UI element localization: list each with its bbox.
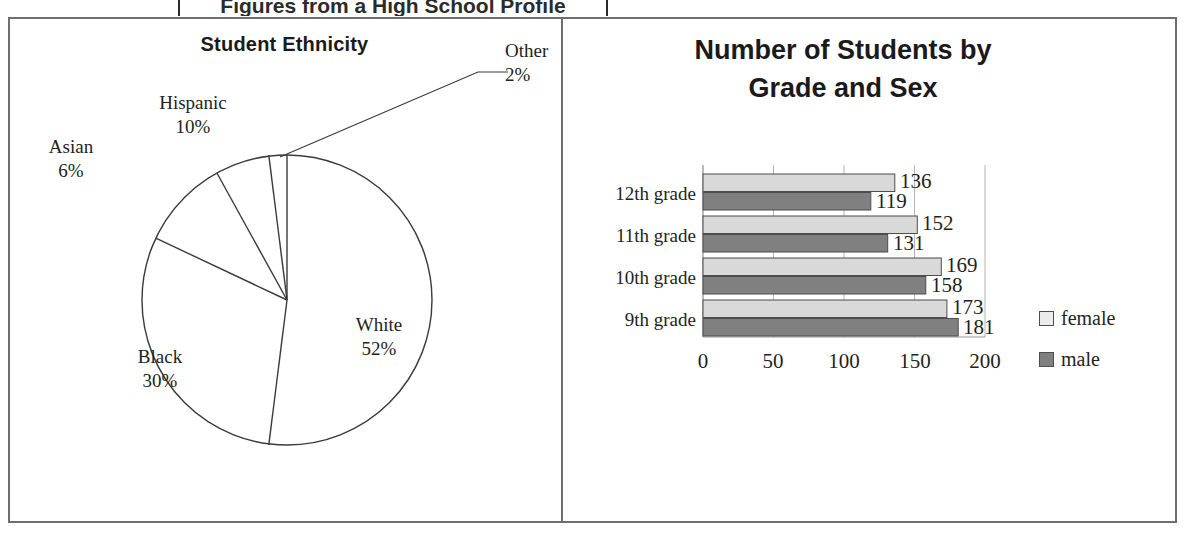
other-leader-line [280, 72, 508, 157]
bar-12th-female [703, 174, 895, 192]
bar-10th-female [703, 258, 941, 276]
pie-label-asian: Asian 6% [28, 135, 114, 183]
bar-10th-male [703, 277, 926, 295]
legend-swatch-female-icon [1039, 311, 1054, 326]
bar-11th-male [703, 235, 888, 253]
pie-label-black: Black 30% [116, 345, 204, 393]
pie-label-white: White 52% [333, 313, 425, 361]
bar-12th-male [703, 193, 871, 211]
category-label-10th: 10th grade [568, 267, 696, 289]
legend-label-male: male [1061, 348, 1100, 371]
top-cropped-title-box: Figures from a High School Profile [178, 0, 608, 16]
value-label-11th-female: 152 [922, 211, 954, 236]
value-label-11th-male: 131 [893, 231, 925, 256]
value-label-9th-male: 181 [963, 315, 995, 340]
bar-9th-male [703, 319, 958, 337]
scanned-figure-page: Figures from a High School Profile Stude… [0, 0, 1185, 535]
xtick-50: 50 [748, 349, 798, 374]
category-label-12th: 12th grade [568, 183, 696, 205]
category-label-9th: 9th grade [568, 309, 696, 331]
pie-chart-graphic [8, 17, 561, 523]
xtick-100: 100 [816, 349, 872, 374]
xtick-150: 150 [887, 349, 943, 374]
xtick-200: 200 [957, 349, 1013, 374]
pie-label-hispanic: Hispanic 10% [138, 91, 248, 139]
category-label-11th: 11th grade [568, 225, 696, 247]
legend-label-female: female [1061, 307, 1115, 330]
value-label-12th-male: 119 [876, 189, 907, 214]
xtick-0: 0 [678, 349, 728, 374]
bar-9th-female [703, 300, 947, 318]
top-cropped-title-text: Figures from a High School Profile [180, 0, 606, 16]
legend-item-male: male [1039, 348, 1100, 371]
legend-item-female: female [1039, 307, 1115, 330]
legend-swatch-male-icon [1039, 352, 1054, 367]
bar-chart-panel: Number of Students by Grade and Sex [563, 17, 1177, 523]
bar-11th-female [703, 216, 917, 234]
pie-chart-panel: Student Ethnicity Other 2% Hispanic [8, 17, 561, 523]
